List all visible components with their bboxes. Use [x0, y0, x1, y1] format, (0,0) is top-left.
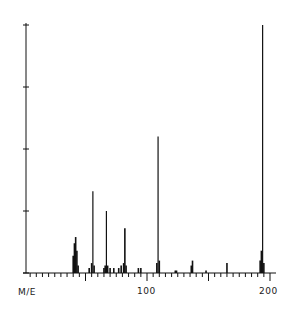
y-axis [23, 23, 29, 273]
spectrum-peaks [73, 25, 264, 273]
x-tick-label-100: 100 [137, 286, 156, 296]
x-tick-label-200: 200 [259, 286, 278, 296]
mass-spectrum-chart [0, 0, 296, 316]
x-axis [23, 273, 276, 281]
x-axis-label: M/E [18, 287, 36, 297]
